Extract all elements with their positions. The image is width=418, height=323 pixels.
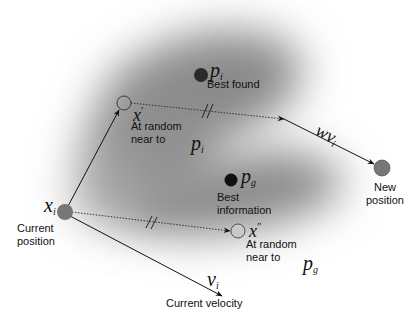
symbol-v-i: vi: [207, 269, 219, 291]
label-best-information: Bestinformation: [217, 191, 271, 217]
symbol-x-i: xi: [44, 195, 56, 217]
label-x-double-prime: At randomnear to: [246, 238, 297, 264]
pso-diagram: xi Currentposition x′ At randomnear to p…: [0, 0, 418, 323]
symbol-p-i-ref: pi: [191, 133, 204, 155]
node-x-double-prime: [231, 224, 245, 238]
label-new-position: Newposition: [366, 181, 404, 207]
label-current-velocity: Current velocity: [166, 297, 242, 310]
node-new-position: [374, 160, 390, 176]
label-best-found: Best found: [207, 78, 260, 91]
symbol-p-g: pg: [241, 166, 256, 188]
symbol-p-g-ref: pg: [303, 253, 318, 275]
label-current-position: Currentposition: [17, 222, 55, 248]
node-best-information: [225, 174, 238, 187]
node-best-found: [194, 68, 208, 82]
label-x-prime: At randomnear to: [131, 120, 182, 146]
node-current-position: [57, 204, 73, 220]
